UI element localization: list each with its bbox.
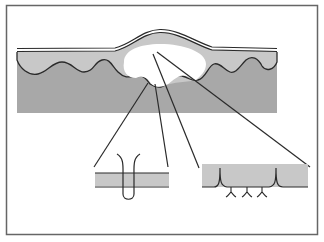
- anchoring-fibril-1: [226, 187, 236, 197]
- anchoring-fibril-3: [257, 187, 267, 197]
- skin-blister-diagram: [0, 0, 324, 242]
- anchoring-fibril-2: [242, 187, 252, 197]
- inset-right-band: [202, 164, 308, 187]
- inset-left: [95, 154, 169, 199]
- inset-right: [202, 164, 308, 197]
- diagram-canvas: [0, 0, 324, 242]
- anchoring-fibrils: [226, 187, 267, 197]
- inset-left-band: [95, 173, 169, 186]
